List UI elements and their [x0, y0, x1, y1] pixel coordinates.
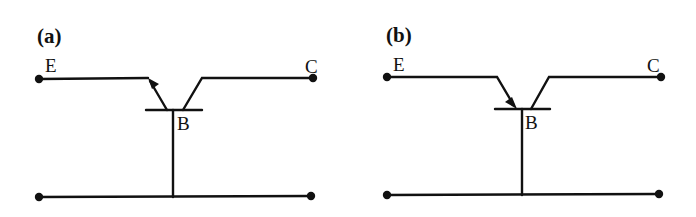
panel-a-arrowhead-icon	[148, 78, 159, 89]
panel-a-emitter-wire	[39, 78, 148, 79]
panel-b-collector-label: C	[647, 55, 660, 76]
panel-b-emitter-terminal-dot	[383, 73, 391, 81]
panel-a-collector-wire	[183, 78, 313, 110]
panel-a-bottom-left-terminal-dot	[35, 193, 43, 201]
panel-a-common-rail	[39, 196, 311, 197]
panel-a-bottom-right-terminal-dot	[307, 192, 315, 200]
panel-a-collector-label: C	[305, 56, 318, 77]
panel-b-collector-wire	[531, 77, 661, 109]
panel-a-base-label: B	[177, 113, 190, 134]
panel-a-label: (a)	[37, 24, 62, 48]
panel-b-collector-terminal-dot	[657, 73, 665, 81]
panel-b-emitter-wire	[387, 77, 513, 104]
panel-b-emitter-label: E	[393, 54, 405, 75]
panel-b-bottom-right-terminal-dot	[655, 190, 663, 198]
panel-b-common-rail	[387, 194, 659, 195]
panel-a: (a) E C B	[35, 24, 318, 201]
panel-a-emitter-terminal-dot	[35, 75, 43, 83]
transistor-diagram: (a) E C B (b) E C B	[0, 0, 696, 217]
panel-b-arrowhead-icon	[505, 97, 517, 109]
panel-a-collector-terminal-dot	[309, 74, 317, 82]
panel-a-emitter-label: E	[45, 55, 57, 76]
panel-b-label: (b)	[386, 23, 412, 47]
panel-b: (b) E C B	[383, 23, 665, 199]
panel-b-bottom-left-terminal-dot	[383, 191, 391, 199]
panel-b-base-label: B	[525, 112, 538, 133]
